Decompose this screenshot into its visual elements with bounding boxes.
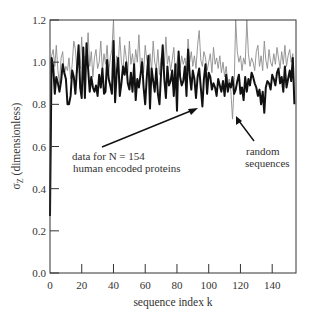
y-axis-label: σZ (dimensionless) <box>10 102 25 189</box>
x-axis-label: sequence index k <box>133 296 212 309</box>
x-tick-label: 140 <box>264 279 281 291</box>
y-tick-label: 0.0 <box>32 267 46 279</box>
y-tick-label: 0.8 <box>32 98 46 110</box>
y-axis-label-unit: (dimensionless) <box>10 102 23 178</box>
annotation-human-proteins: data for N = 154 human encoded proteins <box>72 108 198 174</box>
x-axis-ticks: 020406080100120140 <box>47 264 281 291</box>
chart: 0.00.20.40.60.81.01.2 020406080100120140… <box>0 0 312 323</box>
x-tick-label: 60 <box>140 279 152 291</box>
y-tick-label: 1.0 <box>32 56 46 68</box>
annotation-random-line2: sequences <box>245 157 290 169</box>
arrow-line-random <box>239 121 254 141</box>
y-axis-ticks: 0.00.20.40.60.81.01.2 <box>32 14 59 279</box>
y-tick-label: 1.2 <box>32 14 46 26</box>
arrow-line-proteins <box>102 110 193 147</box>
arrow-head-proteins <box>188 108 198 115</box>
x-tick-label: 0 <box>47 279 53 291</box>
x-tick-label: 20 <box>76 279 88 291</box>
series-human-proteins <box>50 41 294 216</box>
x-tick-label: 80 <box>171 279 183 291</box>
x-tick-label: 100 <box>200 279 217 291</box>
x-tick-label: 40 <box>108 279 120 291</box>
y-tick-label: 0.6 <box>32 141 46 153</box>
annotation-random-sequences: random sequences <box>236 116 290 169</box>
y-tick-label: 0.2 <box>32 225 46 237</box>
annotation-proteins-line2: human encoded proteins <box>73 162 181 174</box>
annotation-proteins-line1: data for N = 154 <box>72 150 145 162</box>
x-tick-label: 120 <box>232 279 249 291</box>
annotation-random-line1: random <box>246 145 280 157</box>
y-tick-label: 0.4 <box>32 183 46 195</box>
